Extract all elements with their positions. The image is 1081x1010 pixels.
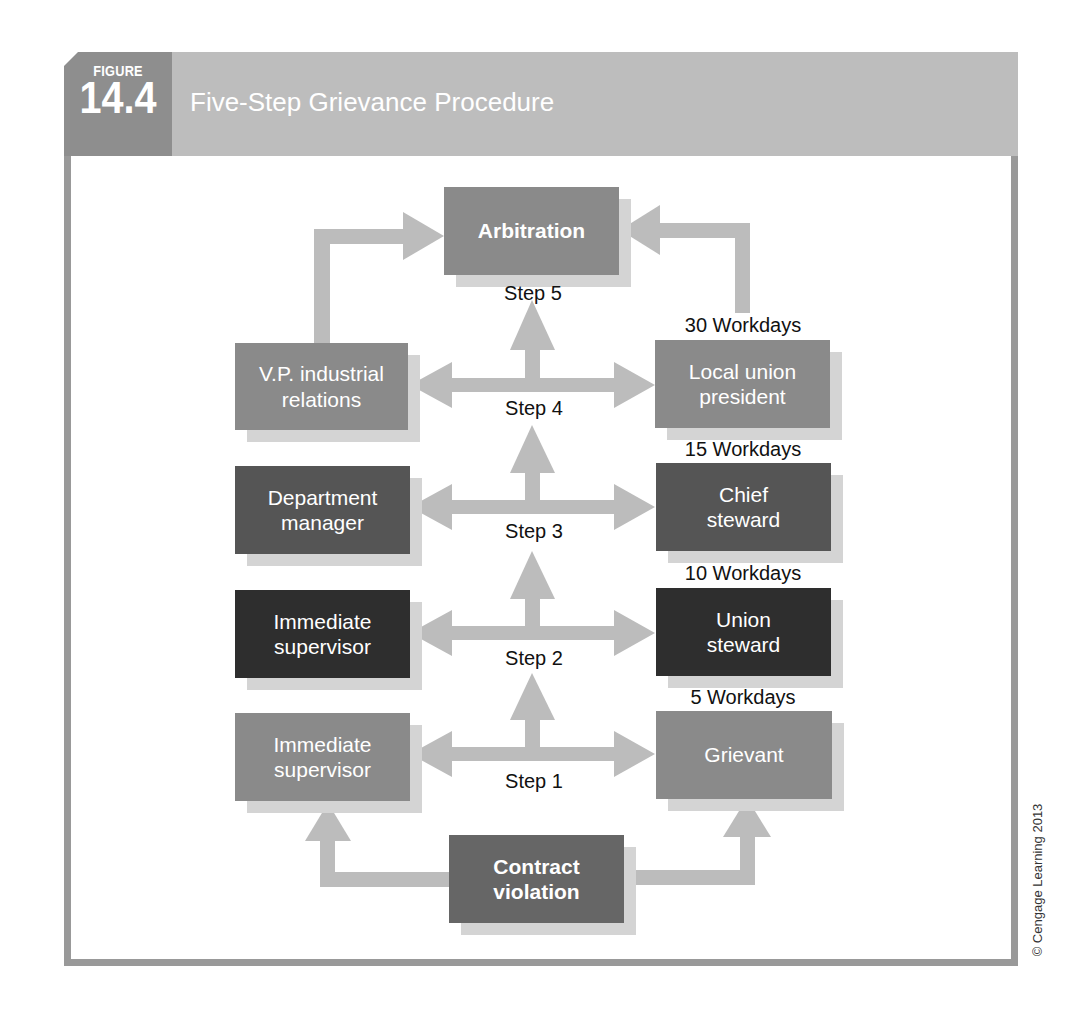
- step1-label: Step 1: [505, 770, 563, 793]
- node-local-line2: president: [689, 384, 796, 409]
- node-union-line2: steward: [707, 632, 781, 657]
- node-grievant-label: Grievant: [704, 742, 783, 767]
- node-vp-line2: relations: [259, 387, 384, 412]
- node-sup2-line2: supervisor: [273, 634, 371, 659]
- time-limit-5-workdays: 5 Workdays: [690, 686, 795, 709]
- step4-label: Step 4: [505, 397, 563, 420]
- node-union-line1: Union: [707, 607, 781, 632]
- node-chief-line1: Chief: [707, 482, 781, 507]
- arrow-vp-to-arbitration: [314, 212, 444, 343]
- time-limit-10-workdays: 10 Workdays: [685, 562, 801, 585]
- node-contract-violation: Contract violation: [449, 835, 624, 923]
- time-limit-15-workdays: 15 Workdays: [685, 438, 801, 461]
- node-vp-industrial-relations: V.P. industrial relations: [235, 343, 408, 430]
- step3-label: Step 3: [505, 520, 563, 543]
- arrow-local-union-to-arbitration: [620, 205, 750, 313]
- node-sup2-line1: Immediate: [273, 609, 371, 634]
- node-chief-line2: steward: [707, 507, 781, 532]
- node-department-manager: Department manager: [235, 466, 410, 554]
- arrow-contract-to-supervisor: [305, 803, 455, 887]
- node-arbitration: Arbitration: [444, 187, 619, 275]
- copyright-notice: © Cengage Learning 2013: [1030, 804, 1045, 957]
- node-immediate-supervisor-step2: Immediate supervisor: [235, 590, 410, 678]
- node-dept-line1: Department: [268, 485, 378, 510]
- node-arbitration-label: Arbitration: [478, 218, 585, 243]
- step3-arrows: [410, 425, 655, 530]
- node-immediate-supervisor-step1: Immediate supervisor: [235, 713, 410, 801]
- node-dept-line2: manager: [268, 510, 378, 535]
- node-sup1-line1: Immediate: [273, 732, 371, 757]
- node-chief-steward: Chief steward: [656, 463, 831, 551]
- time-limit-30-workdays: 30 Workdays: [685, 314, 801, 337]
- node-local-union-president: Local union president: [655, 340, 830, 428]
- node-contract-line1: Contract: [493, 854, 579, 879]
- step1-arrows: [410, 673, 655, 777]
- arrow-contract-to-grievant: [620, 798, 771, 885]
- step2-arrows: [410, 551, 655, 656]
- node-sup1-line2: supervisor: [273, 757, 371, 782]
- step5-label: Step 5: [504, 282, 562, 305]
- node-grievant: Grievant: [656, 711, 832, 799]
- step2-label: Step 2: [505, 647, 563, 670]
- node-contract-line2: violation: [493, 879, 579, 904]
- node-local-line1: Local union: [689, 359, 796, 384]
- node-union-steward: Union steward: [656, 588, 831, 676]
- step4-arrows: [410, 300, 655, 408]
- node-vp-line1: V.P. industrial: [259, 361, 384, 386]
